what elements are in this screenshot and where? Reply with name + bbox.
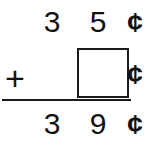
cent-symbol-icon: ¢	[124, 111, 146, 139]
answer-input-box[interactable]	[77, 48, 129, 98]
top-addend-tens-digit: 3	[40, 7, 64, 37]
plus-operator-icon: +	[2, 61, 28, 95]
addition-problem-worksheet: 3 5 ¢ + ¢ 3 9 ¢	[0, 0, 153, 145]
sum-rule-line	[2, 99, 131, 101]
top-addend-ones-digit: 5	[86, 7, 110, 37]
cent-symbol-icon: ¢	[124, 61, 146, 89]
cent-symbol-icon: ¢	[124, 9, 146, 37]
sum-tens-digit: 3	[40, 109, 64, 139]
sum-ones-digit: 9	[86, 109, 110, 139]
